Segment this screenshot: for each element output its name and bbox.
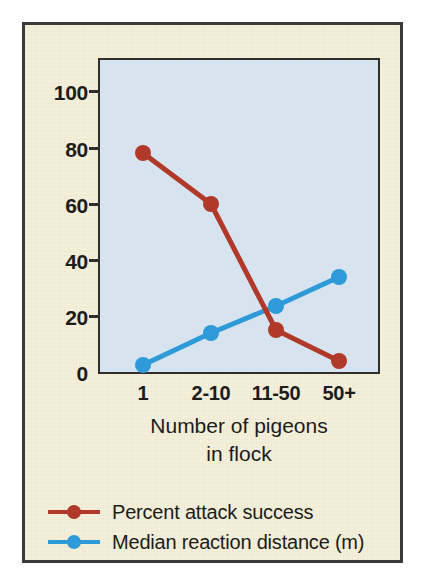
legend-label-percent-attack-success: Percent attack success (112, 502, 313, 522)
legend: Percent attack success Median reaction d… (46, 497, 396, 557)
x-axis-title-line1: Number of pigeons (98, 412, 380, 440)
x-tick-label-50plus: 50+ (307, 383, 371, 403)
x-tick-label-2-10: 2-10 (176, 383, 246, 403)
y-tick-label-80: 80 (30, 139, 88, 160)
y-tick-mark-80 (89, 147, 100, 150)
y-tick-label-0: 0 (30, 363, 88, 384)
x-axis-title-line2: in flock (98, 440, 380, 468)
x-axis-title: Number of pigeons in flock (98, 412, 380, 467)
line-chart: 100 80 60 40 20 0 1 (0, 0, 427, 586)
legend-label-median-reaction-distance: Median reaction distance (m) (112, 532, 364, 552)
y-tick-label-100: 100 (30, 82, 88, 103)
y-tick-label-60: 60 (30, 195, 88, 216)
legend-marker-blue-icon (46, 533, 102, 551)
plot-area (98, 58, 380, 374)
y-tick-mark-100 (89, 90, 100, 93)
legend-item-median-reaction-distance: Median reaction distance (m) (46, 527, 396, 557)
y-tick-mark-40 (89, 259, 100, 262)
x-tick-label-1: 1 (118, 383, 168, 403)
y-tick-label-40: 40 (30, 251, 88, 272)
y-tick-mark-20 (89, 315, 100, 318)
legend-marker-red-icon (46, 503, 102, 521)
y-tick-label-20: 20 (30, 307, 88, 328)
legend-item-percent-attack-success: Percent attack success (46, 497, 396, 527)
y-tick-mark-60 (89, 203, 100, 206)
x-tick-label-11-50: 11-50 (240, 383, 312, 403)
figure-root: 100 80 60 40 20 0 1 (0, 0, 427, 586)
